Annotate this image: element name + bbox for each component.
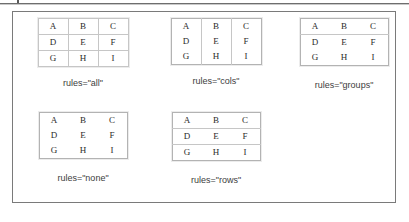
demo-table-rules-all: A B C D E F G H I — [38, 18, 129, 67]
table-cell: B — [330, 19, 359, 35]
table-cell: F — [98, 35, 128, 51]
table-body-group: D E F G H I — [300, 35, 388, 66]
example-rules-groups: A B C D E F G H — [282, 18, 406, 90]
example-rules-none: A B C D E F G H I — [21, 112, 145, 183]
example-caption: rules="all" — [21, 78, 145, 88]
table-row: D E F — [300, 35, 388, 51]
table-cell: A — [39, 113, 69, 129]
table-cell: H — [202, 145, 231, 161]
demo-table-rules-groups: A B C D E F G H — [300, 18, 389, 66]
demo-table-rules-cols: A B C D E F G H I — [171, 18, 262, 65]
table-cell: F — [359, 35, 389, 51]
table-cell: F — [231, 129, 261, 145]
table-cell: G — [300, 50, 330, 66]
table-cell: G — [39, 143, 69, 159]
table-cell: G — [38, 51, 68, 67]
table-cell: A — [171, 19, 201, 35]
table-cell: D — [172, 129, 202, 145]
table-cell: E — [68, 35, 98, 51]
table-cell: I — [231, 145, 261, 161]
table-cell: B — [68, 19, 98, 35]
table-cell: F — [98, 128, 128, 143]
table-cell: H — [201, 49, 231, 65]
table-cell: C — [359, 19, 389, 35]
example-rules-cols: A B C D E F G H I — [154, 18, 278, 86]
table-row: G H I — [38, 51, 128, 67]
table-cell: D — [300, 35, 330, 51]
table-cell: E — [201, 34, 231, 49]
table-cell: C — [231, 19, 261, 35]
table-cell: D — [38, 35, 68, 51]
demo-table-rules-none: A B C D E F G H I — [39, 112, 128, 159]
figure-frame: A B C D E F G H I — [12, 11, 396, 203]
example-caption: rules="none" — [21, 173, 145, 183]
table-cell: B — [202, 113, 231, 129]
table-row: A B C — [38, 19, 128, 35]
table-row: D E F — [171, 34, 261, 49]
table-cell: D — [39, 128, 69, 143]
table-cell: B — [201, 19, 231, 35]
table-cell: I — [98, 143, 128, 159]
table-cell: D — [171, 34, 201, 49]
table-row: G H I — [172, 145, 260, 161]
example-caption: rules="rows" — [154, 175, 278, 185]
table-cell: G — [171, 49, 201, 65]
table-row: G H I — [300, 50, 388, 66]
table-row: G H I — [39, 143, 127, 159]
example-caption: rules="cols" — [154, 76, 278, 86]
table-cell: I — [359, 50, 389, 66]
table-row: A B C — [171, 19, 261, 35]
table-row: G H I — [171, 49, 261, 65]
table-wrap-cols: A B C D E F G H I — [154, 18, 278, 65]
table-row: D E F — [38, 35, 128, 51]
example-caption: rules="groups" — [282, 80, 406, 90]
table-wrap-groups: A B C D E F G H — [282, 18, 406, 66]
table-wrap-all: A B C D E F G H I — [21, 18, 145, 67]
table-cell: E — [69, 128, 98, 143]
example-rules-rows: A B C D E F G H I — [154, 112, 278, 185]
table-cell: G — [172, 145, 202, 161]
table-body-rows: A B C D E F G H I — [172, 113, 260, 161]
table-row: D E F — [39, 128, 127, 143]
table-cell: C — [98, 19, 128, 35]
table-cell: H — [330, 50, 359, 66]
example-rules-all: A B C D E F G H I — [21, 18, 145, 88]
table-cell: C — [231, 113, 261, 129]
table-cell: A — [172, 113, 202, 129]
table-body-none: A B C D E F G H I — [39, 113, 127, 159]
page-top-rule-shadow — [0, 4, 409, 5]
table-cell: E — [330, 35, 359, 51]
table-row: A B C — [39, 113, 127, 129]
table-cell: I — [98, 51, 128, 67]
table-cell: A — [38, 19, 68, 35]
demo-table-rules-rows: A B C D E F G H I — [172, 112, 261, 161]
table-row: D E F — [172, 129, 260, 145]
table-wrap-rows: A B C D E F G H I — [154, 112, 278, 161]
table-row: A B C — [172, 113, 260, 129]
table-cell: F — [231, 34, 261, 49]
table-cell: C — [98, 113, 128, 129]
table-body-cols: A B C D E F G H I — [171, 19, 261, 65]
table-cell: E — [202, 129, 231, 145]
table-cell: H — [68, 51, 98, 67]
table-cell: B — [69, 113, 98, 129]
table-wrap-none: A B C D E F G H I — [21, 112, 145, 159]
table-body-all: A B C D E F G H I — [38, 19, 128, 67]
table-head-group: A B C — [300, 19, 388, 35]
table-cell: I — [231, 49, 261, 65]
table-cell: A — [300, 19, 330, 35]
table-row: A B C — [300, 19, 388, 35]
table-cell: H — [69, 143, 98, 159]
